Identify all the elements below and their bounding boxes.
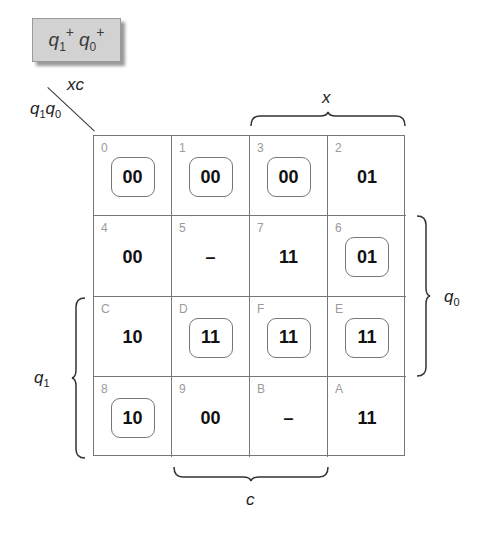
cell-value: 01 <box>345 157 389 197</box>
cell-value: 00 <box>189 157 233 197</box>
cell-value: 11 <box>345 398 389 438</box>
kmap-cell-9: 900 <box>172 377 250 457</box>
q1-brace <box>71 297 87 459</box>
q0-brace <box>415 215 431 377</box>
cell-index: F <box>257 302 264 316</box>
title-q0: q0+ <box>79 26 104 54</box>
c-brace <box>173 466 329 482</box>
column-variables-label: xc <box>67 75 84 95</box>
cell-value: – <box>267 398 311 438</box>
kmap-cell-C: C10 <box>94 297 172 377</box>
x-brace-label: x <box>322 88 331 108</box>
cell-value: 10 <box>111 398 155 438</box>
cell-value: 00 <box>111 157 155 197</box>
kmap-cell-3: 300 <box>250 136 328 216</box>
cell-index: D <box>179 302 188 316</box>
cell-value: – <box>189 237 233 277</box>
cell-value: 00 <box>267 157 311 197</box>
function-title: q1+ q0+ <box>32 18 121 62</box>
cell-index: 0 <box>101 141 108 155</box>
cell-index: 2 <box>335 141 342 155</box>
cell-value: 01 <box>345 237 389 277</box>
kmap-cell-8: 810 <box>94 377 172 457</box>
cell-value: 10 <box>111 318 155 358</box>
cell-index: 8 <box>101 382 108 396</box>
kmap-cell-F: F11 <box>250 297 328 377</box>
cell-index: 1 <box>179 141 186 155</box>
cell-index: 7 <box>257 221 264 235</box>
cell-value: 00 <box>111 237 155 277</box>
kmap-cell-E: E11 <box>328 297 406 377</box>
kmap-cell-D: D11 <box>172 297 250 377</box>
cell-index: 5 <box>179 221 186 235</box>
row-variables-label: q1q0 <box>30 99 61 120</box>
cell-value: 11 <box>189 318 233 358</box>
kmap-cell-6: 601 <box>328 216 406 296</box>
kmap-cell-B: B– <box>250 377 328 457</box>
cell-value: 11 <box>267 318 311 358</box>
cell-index: A <box>335 382 343 396</box>
kmap-cell-7: 711 <box>250 216 328 296</box>
q0-brace-label: q0 <box>444 287 460 308</box>
q1-brace-label: q1 <box>34 368 50 389</box>
kmap-cell-1: 100 <box>172 136 250 216</box>
kmap-cell-2: 201 <box>328 136 406 216</box>
cell-index: E <box>335 302 343 316</box>
cell-index: B <box>257 382 265 396</box>
cell-index: 3 <box>257 141 264 155</box>
cell-value: 11 <box>345 318 389 358</box>
cell-index: 4 <box>101 221 108 235</box>
cell-index: C <box>101 302 110 316</box>
title-q1: q1+ <box>49 26 74 54</box>
kmap-cell-5: 5– <box>172 216 250 296</box>
karnaugh-map-grid: 000 100 300 201 400 5– 711 601 C10 D11 F… <box>93 135 405 456</box>
cell-index: 9 <box>179 382 186 396</box>
cell-value: 00 <box>189 398 233 438</box>
kmap-cell-A: A11 <box>328 377 406 457</box>
cell-value: 11 <box>267 237 311 277</box>
kmap-cell-0: 000 <box>94 136 172 216</box>
kmap-cell-4: 400 <box>94 216 172 296</box>
c-brace-label: c <box>246 490 255 510</box>
cell-index: 6 <box>335 221 342 235</box>
x-brace <box>250 112 406 128</box>
